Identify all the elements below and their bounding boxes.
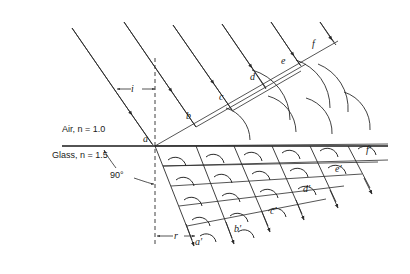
wavelet-arc: [290, 168, 308, 177]
angle-r-label: r: [174, 230, 178, 241]
wavelet-arc: [282, 150, 300, 159]
refracted-ray-b-head: [226, 222, 234, 244]
wavelet-large-arc: [318, 64, 348, 112]
wavefront-label-a: a: [143, 133, 148, 144]
figure-canvas: Air, n = 1.0 Glass, n = 1.5 90° i r a b …: [0, 0, 410, 274]
wavelet-large-arc: [306, 98, 332, 134]
wavelet-arc: [252, 171, 270, 180]
refracted-wavefront-6: [163, 160, 388, 166]
wavefront-label-c: c: [219, 91, 223, 102]
right-angle-label: 90°: [110, 170, 124, 180]
incident-rays: [72, 22, 334, 144]
incident-ray-6-head: [320, 22, 332, 40]
incident-ray-4-head: [222, 24, 252, 68]
wavefront-label-d-prime: d′: [303, 183, 310, 194]
wavelet-arc: [168, 157, 186, 166]
wavefront-label-f-prime: f′: [366, 144, 371, 155]
incident-ray-3-head: [173, 25, 214, 84]
wavelet-large-arc: [268, 96, 296, 132]
refracted-ray-c-head: [262, 212, 270, 232]
refracted-ray-e: [310, 146, 336, 202]
wavelet-arc: [320, 148, 338, 157]
incident-rays-lower: [132, 40, 336, 145]
medium-label-air: Air, n = 1.0: [62, 124, 105, 134]
wavefront-label-e-prime: e′: [335, 163, 342, 174]
incident-wavefronts: [155, 41, 338, 146]
refracted-ray-a-head: [186, 224, 194, 246]
medium-label-glass: Glass, n = 1.5: [52, 150, 108, 160]
incident-ray-2-head: [124, 22, 172, 92]
refracted-ray-e-head: [330, 190, 338, 208]
wavelet-arc: [206, 154, 224, 163]
wavelet-large-arc: [226, 108, 250, 140]
refracted-ray-f-head: [364, 178, 372, 194]
huygens-refraction-diagram: [0, 0, 410, 274]
incident-wavefront-af: [155, 41, 338, 146]
incident-ray-5-head: [271, 22, 294, 56]
wavelet-arc: [260, 189, 278, 198]
angle-i-label: i: [131, 83, 134, 94]
huygens-wavelet-arcs: [168, 146, 376, 242]
wavefront-label-c-prime: c′: [270, 205, 277, 216]
refracted-wavefront-3: [171, 174, 362, 186]
wavefront-label-b-prime: b′: [234, 223, 241, 234]
wavefront-label-b: b: [186, 110, 191, 121]
wavefront-label-d: d: [250, 71, 255, 82]
wavelet-arc: [200, 234, 216, 242]
incident-ray-1-head: [72, 28, 132, 115]
wavelet-large-arc: [252, 70, 290, 120]
wavefront-label-e: e: [281, 55, 285, 66]
wavefront-label-f: f: [312, 38, 315, 49]
right-angle-leader-right: [134, 178, 154, 184]
huygens-large-arcs: [226, 60, 370, 140]
refracted-wavefront-4: [179, 186, 344, 206]
wavelet-arc: [214, 174, 232, 183]
wavelet-arc: [244, 152, 262, 161]
wavefront-label-a-prime: a′: [195, 236, 202, 247]
refracted-ray-d-head: [296, 200, 304, 220]
incident-ray-2-tail: [172, 92, 196, 127]
